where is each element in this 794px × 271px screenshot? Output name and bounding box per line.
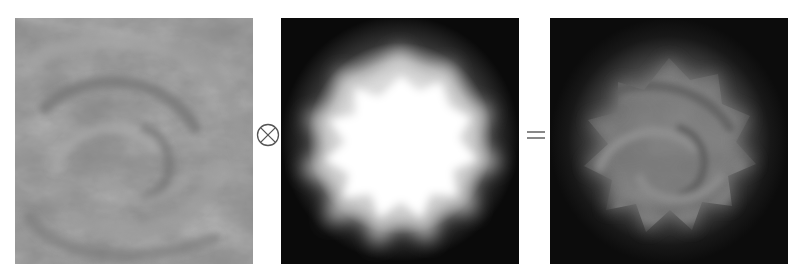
masked-result-graphic <box>550 18 788 264</box>
texture-image-panel <box>15 18 253 264</box>
circled-times-icon <box>256 123 280 147</box>
result-image-panel <box>550 18 788 264</box>
radial-mask-graphic <box>281 18 519 264</box>
equals-sign-icon <box>526 129 546 141</box>
equals-operator-icon: = <box>524 122 548 148</box>
multiply-operator-icon: ⊗ <box>255 122 281 148</box>
texture-swirl-graphic <box>15 18 253 264</box>
mask-image-panel <box>281 18 519 264</box>
